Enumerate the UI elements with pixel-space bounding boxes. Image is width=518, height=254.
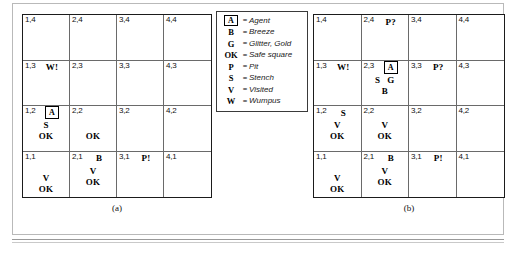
cell-mark: OK <box>86 177 100 188</box>
cell-coordinate-label: 2,3 <box>72 61 83 71</box>
cell-mark-stack: VOK <box>70 154 116 196</box>
cell-mark: OK <box>39 131 53 142</box>
grid-a-cell-3-2: 3,2 <box>117 106 164 152</box>
wumpus-grid-a: 1,42,43,44,41,3W!2,33,34,31,2ASOK2,2OK3,… <box>22 14 212 198</box>
legend-key: OK <box>221 50 241 60</box>
cell-coordinate-label: 4,1 <box>166 152 177 162</box>
cell-inline-marks: P! <box>409 153 456 164</box>
grid-a-cell-2-4: 2,4 <box>70 15 117 61</box>
cell-mark: P? <box>386 17 396 27</box>
legend-key: B <box>221 27 241 37</box>
legend-description: Agent <box>249 16 270 26</box>
cell-mark: P! <box>434 153 443 163</box>
mark-row: V <box>381 120 388 131</box>
cell-coordinate-label: 4,1 <box>459 152 470 162</box>
cell-mark-stack: VOK <box>362 108 409 149</box>
legend-equals: = <box>241 62 249 71</box>
cell-coordinate-label: 4,2 <box>459 106 470 116</box>
mark-row: SG <box>375 75 394 86</box>
cell-coordinate-label: 4,3 <box>166 61 177 71</box>
mark-row: V <box>334 120 341 131</box>
cell-inline-marks: W! <box>23 62 69 73</box>
cell-coordinate-label: 1,4 <box>316 15 327 25</box>
legend-description: Glitter, Gold <box>249 39 291 49</box>
mark-row: OK <box>86 131 100 142</box>
legend-row-breeze: B=Breeze <box>221 27 303 39</box>
cell-mark: OK <box>330 131 344 142</box>
cell-mark: W! <box>46 62 58 72</box>
cell-mark: G <box>387 75 394 86</box>
grid-a-cell-4-1: 4,1 <box>164 152 211 198</box>
grid-a-cell-3-4: 3,4 <box>117 15 164 61</box>
cell-mark: OK <box>378 177 392 188</box>
cell-mark: B <box>382 86 388 97</box>
legend-description: Breeze <box>249 27 274 37</box>
mark-row: OK <box>39 131 53 142</box>
cell-mark: S <box>375 75 380 86</box>
grid-b-cell-3-3: 3,3P? <box>409 61 457 107</box>
legend-description: Stench <box>249 73 274 83</box>
bottom-rule-top <box>12 239 504 240</box>
grid-a-cell-1-4: 1,4 <box>23 15 70 61</box>
grid-b-cell-4-2: 4,2 <box>457 106 505 152</box>
mark-row: S <box>43 120 48 131</box>
mark-row: OK <box>378 177 392 188</box>
legend-equals: = <box>241 97 249 106</box>
legend-equals: = <box>241 51 249 60</box>
caption-a: (a) <box>22 203 212 213</box>
cell-mark: P? <box>433 62 443 72</box>
mark-row: V <box>334 173 341 184</box>
mark-row: V <box>90 166 97 177</box>
legend-row-agent: A=Agent <box>221 15 303 27</box>
grid-b-cell-4-3: 4,3 <box>457 61 505 107</box>
legend-box: A=AgentB=BreezeG=Glitter, GoldOK=Safe sq… <box>216 11 308 112</box>
cell-mark: W! <box>337 62 349 72</box>
legend-equals: = <box>241 74 249 83</box>
cell-mark: OK <box>39 184 53 195</box>
mark-row: OK <box>330 131 344 142</box>
cell-mark-stack: VOK <box>314 154 361 196</box>
cell-mark: V <box>334 173 341 184</box>
grid-b-cell-3-2: 3,2 <box>409 106 457 152</box>
cell-coordinate-label: 3,2 <box>119 106 130 116</box>
grid-a-cell-2-1: 2,1BVOK <box>70 152 117 198</box>
grid-b-cell-1-2: 1,2SVOK <box>314 106 362 152</box>
mark-row: OK <box>378 131 392 142</box>
grid-a-cell-1-3: 1,3W! <box>23 61 70 107</box>
grid-a-cell-2-3: 2,3 <box>70 61 117 107</box>
grid-b-cell-2-2: 2,2VOK <box>362 106 410 152</box>
cell-mark-stack: SGB <box>362 63 409 104</box>
grid-b-cell-3-4: 3,4 <box>409 15 457 61</box>
cell-inline-marks: P? <box>409 62 456 73</box>
legend-equals: = <box>241 16 249 25</box>
grid-b-cell-1-3: 1,3W! <box>314 61 362 107</box>
legend-row-visited: V=Visited <box>221 84 303 96</box>
grid-b-cell-4-1: 4,1 <box>457 152 505 198</box>
mark-row: V <box>381 166 388 177</box>
legend-key: V <box>221 85 241 95</box>
cell-coordinate-label: 4,3 <box>459 61 470 71</box>
mark-row: OK <box>86 177 100 188</box>
grid-b-cell-2-1: 2,1BVOK <box>362 152 410 198</box>
legend-key: W <box>221 96 241 106</box>
legend-key: P <box>221 62 241 72</box>
legend-key: G <box>221 39 241 49</box>
grid-a-cell-4-2: 4,2 <box>164 106 211 152</box>
cell-coordinate-label: 3,4 <box>119 15 130 25</box>
cell-mark: V <box>334 120 341 131</box>
cell-coordinate-label: 3,3 <box>119 61 130 71</box>
cell-mark: OK <box>378 131 392 142</box>
cell-mark: V <box>90 166 97 177</box>
grid-b-cell-1-4: 1,4 <box>314 15 362 61</box>
cell-coordinate-label: 4,2 <box>166 106 177 116</box>
legend-key: S <box>221 73 241 83</box>
legend-row-safe-square: OK=Safe square <box>221 50 303 62</box>
cell-mark-stack: VOK <box>314 108 361 149</box>
legend-equals: = <box>241 85 249 94</box>
mark-row: OK <box>330 184 344 195</box>
caption-b: (b) <box>313 203 505 213</box>
mark-row: B <box>382 86 388 97</box>
cell-mark: OK <box>330 184 344 195</box>
cell-coordinate-label: 3,4 <box>411 15 422 25</box>
grid-b-cell-3-1: 3,1P! <box>409 152 457 198</box>
